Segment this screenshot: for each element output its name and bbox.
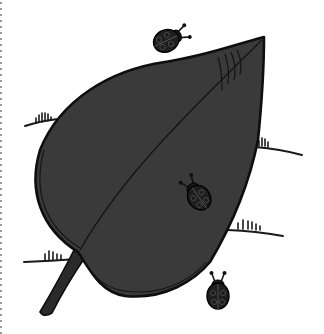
illustration-canvas: Leaf with ladybugs coloring illustration: [0, 0, 324, 334]
ladybug-bottom: [207, 271, 229, 309]
dotted-left-border: [0, 0, 2, 334]
ladybug-top: [150, 20, 194, 56]
grass-right-top: [255, 138, 302, 155]
leaf-scene: [0, 0, 324, 334]
grass-right-bottom: [228, 220, 283, 236]
